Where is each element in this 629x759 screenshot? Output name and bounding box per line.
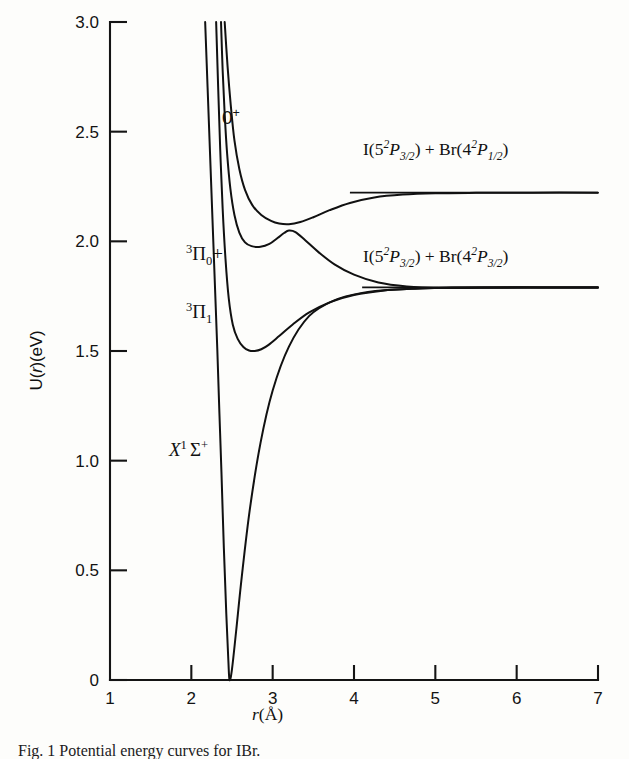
y-tick-label-3: 1.5	[75, 342, 99, 361]
curve-label-x-sigma: Σ	[187, 439, 201, 460]
asym-upper-bromine: ) + Br(4	[415, 139, 472, 159]
axis-lines	[110, 22, 598, 680]
asym-lower-close: )	[502, 246, 508, 266]
asym-upper-iodine: I(5	[363, 139, 383, 159]
curve-x1sigma	[205, 22, 598, 680]
potential-curves	[205, 22, 598, 680]
y-tick-label-5: 2.5	[75, 123, 99, 142]
curve-3pi1	[216, 22, 598, 351]
asymptote-label-lower: I(52P3/2) + Br(42P3/2)	[363, 248, 508, 266]
asym-lower-i-j: 3/2	[400, 257, 415, 269]
curve-label-3pi1-term: Π	[192, 301, 206, 322]
x-tick-label-3: 4	[349, 689, 358, 708]
asym-lower-br-term: P	[477, 246, 488, 266]
curve-label-x-multiplicity: 1	[181, 438, 187, 452]
y-axis-title-var: r	[27, 367, 46, 372]
asym-upper-br-j: 1/2	[488, 150, 503, 162]
asym-lower-iodine: I(5	[363, 246, 383, 266]
x-axis-title: r(Å)	[252, 706, 283, 724]
curve-label-3pi1-omega: 1	[206, 312, 212, 326]
curve-label-x1sigma: X1Σ+	[169, 440, 208, 459]
asym-lower-i-term: P	[389, 246, 400, 266]
asym-upper-i-j: 3/2	[400, 150, 415, 162]
curve-label-0plus-charge: +	[233, 106, 240, 120]
y-tick-label-6: 3.0	[75, 13, 99, 32]
asym-lower-br-j: 3/2	[488, 257, 503, 269]
y-tick-label-2: 1.0	[75, 452, 99, 471]
asymptote-rules	[350, 193, 598, 288]
x-tick-label-4: 5	[431, 689, 440, 708]
y-tick-label-4: 2.0	[75, 232, 99, 251]
curve-label-x-state: X	[169, 439, 181, 460]
curve-label-0plus: 0+	[222, 108, 240, 127]
x-tick-label-1: 2	[187, 689, 196, 708]
tick-marks	[110, 22, 598, 680]
curve-label-3pi0-term: Π	[192, 243, 206, 264]
x-axis-title-var: r	[252, 704, 259, 724]
curve-label-3pi1: 3Π1	[186, 302, 212, 321]
curve-0	[225, 22, 598, 224]
curve-label-3pi0plus: 3Π0+	[186, 244, 223, 263]
asym-upper-br-term: P	[477, 139, 488, 159]
potential-energy-curve-figure: 00.51.01.52.02.53.01234567 U(r)(eV) r(Å)…	[0, 0, 629, 759]
y-axis-title-head: U(	[27, 373, 46, 391]
y-axis-title: U(r)(eV)	[28, 301, 45, 421]
asym-upper-close: )	[502, 139, 508, 159]
curve-label-3pi0-charge: +	[212, 243, 223, 264]
tick-labels: 00.51.01.52.02.53.01234567	[75, 13, 602, 708]
y-tick-label-1: 0.5	[75, 561, 99, 580]
asym-lower-bromine: ) + Br(4	[415, 246, 472, 266]
figure-caption: Fig. 1 Potential energy curves for IBr.	[18, 742, 618, 759]
curve-label-0plus-main: 0	[222, 107, 233, 128]
x-tick-label-6: 7	[593, 689, 602, 708]
y-axis-title-tail: )(eV)	[27, 331, 46, 368]
curve-label-x-charge: +	[201, 438, 208, 452]
y-tick-label-0: 0	[90, 671, 99, 690]
x-axis-title-unit: (Å)	[259, 704, 283, 724]
plot-canvas: 00.51.01.52.02.53.01234567	[0, 0, 629, 759]
x-tick-label-5: 6	[512, 689, 521, 708]
x-tick-label-0: 1	[105, 689, 114, 708]
asymptote-label-upper: I(52P3/2) + Br(42P1/2)	[363, 141, 508, 159]
asym-upper-i-term: P	[389, 139, 400, 159]
